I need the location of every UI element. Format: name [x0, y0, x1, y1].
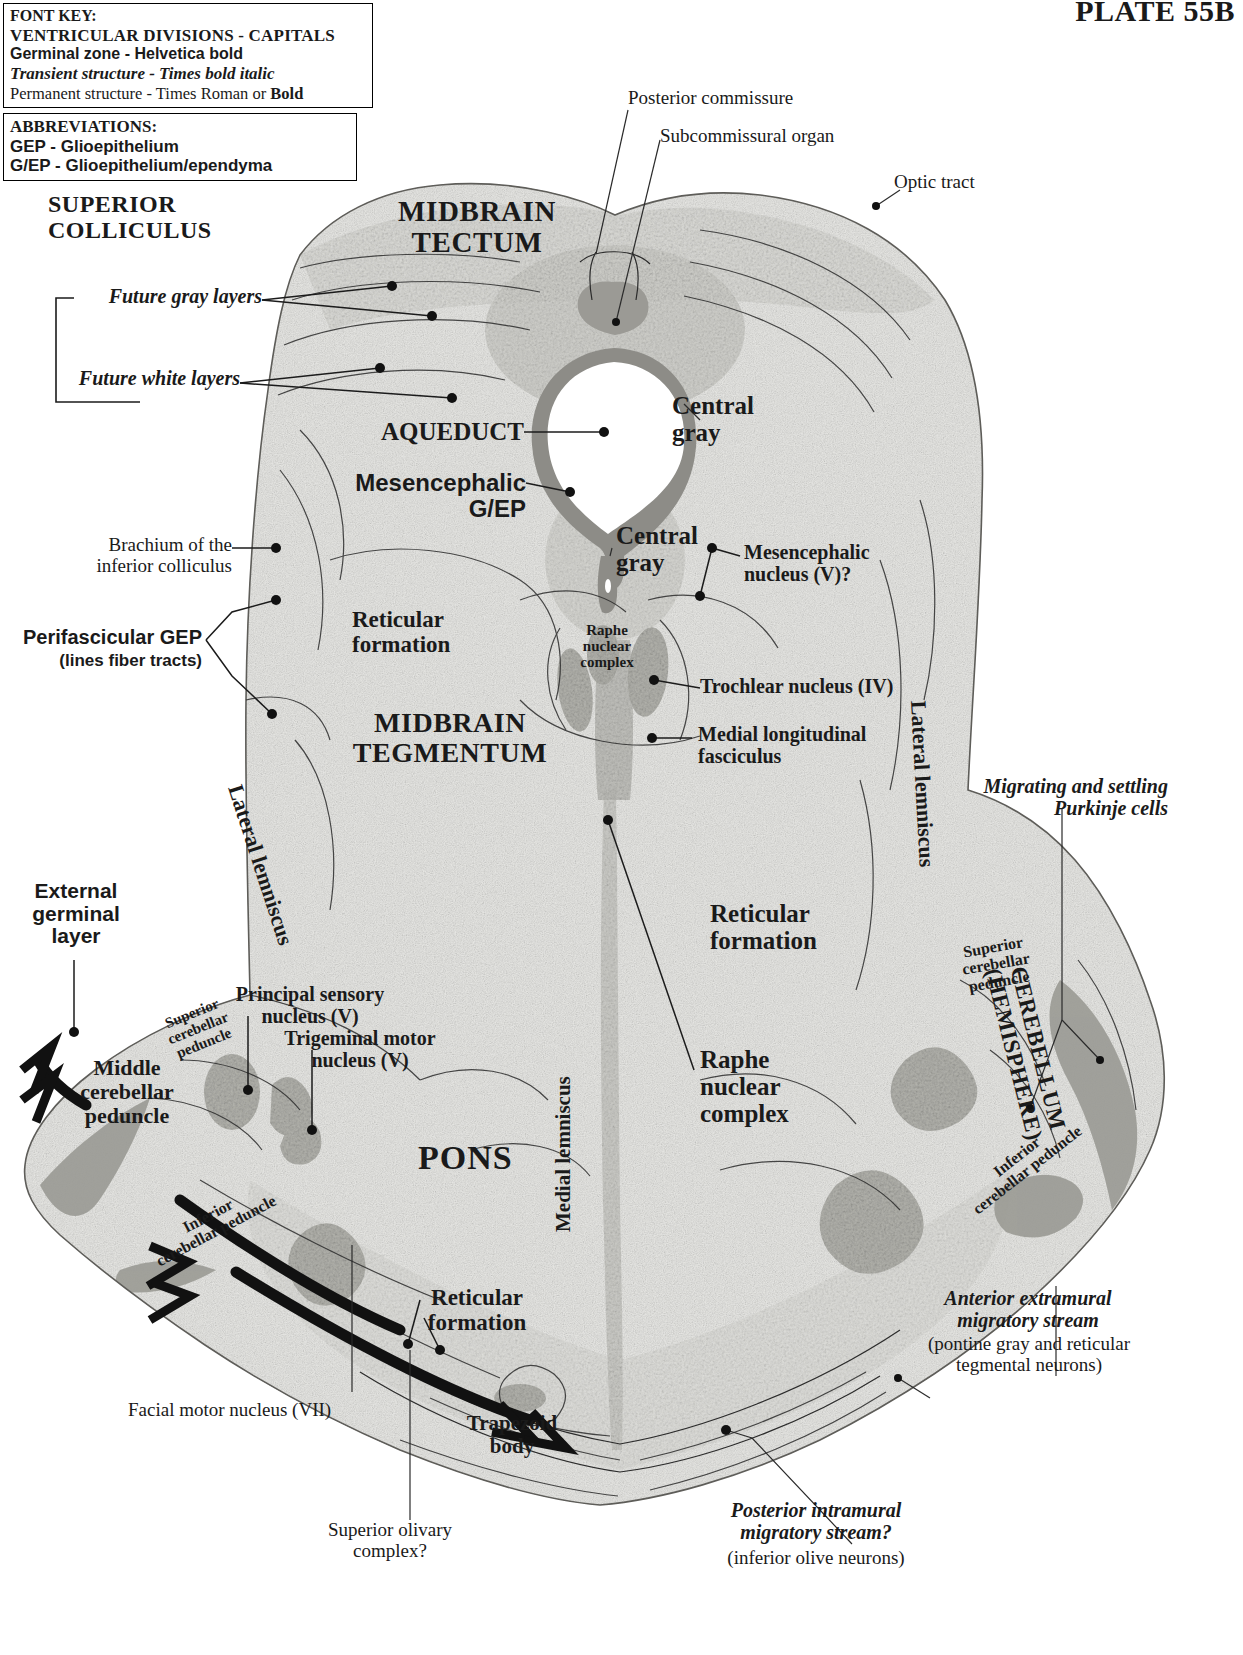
- label-anterior-extramural-stream-sublabel: (pontine gray and reticular tegmental ne…: [898, 1334, 1160, 1375]
- label-mesencephalic-nucleus-v: Mesencephalic nucleus (V)?: [744, 542, 870, 585]
- label-subcommissural-organ: Subcommissural organ: [660, 126, 834, 147]
- label-mesencephalic-gep: Mesencephalic G/EP: [316, 470, 526, 522]
- label-superior-olivary-complex: Superior olivary complex?: [300, 1520, 480, 1561]
- plate-canvas: FONT KEY: VENTRICULAR DIVISIONS - CAPITA…: [0, 0, 1243, 1655]
- label-midbrain-tectum: MIDBRAIN TECTUM: [372, 196, 582, 259]
- label-medial-lemniscus: Medial lemniscus: [552, 1076, 575, 1232]
- font-key-permanent: Permanent structure - Times Roman or Bol…: [10, 84, 366, 103]
- label-optic-tract: Optic tract: [894, 172, 975, 193]
- plate-number: PLATE 55B: [1075, 0, 1235, 28]
- label-medial-longitudinal-fasciculus: Medial longitudinal fasciculus: [698, 724, 866, 767]
- label-brachium-inferior-colliculus: Brachium of the inferior colliculus: [0, 535, 232, 576]
- label-raphe-nuclear-complex-small: Raphe nuclear complex: [568, 622, 646, 671]
- label-future-gray-layers: Future gray layers: [0, 286, 262, 308]
- label-raphe-nuclear-complex: Raphe nuclear complex: [700, 1046, 789, 1127]
- label-superior-colliculus: SUPERIOR COLLICULUS: [48, 192, 212, 244]
- label-aqueduct: AQUEDUCT: [330, 418, 524, 445]
- font-key-germinal: Germinal zone - Helvetica bold: [10, 45, 366, 64]
- font-key-permanent-text: Permanent structure - Times Roman or: [10, 84, 270, 103]
- label-external-germinal-layer: External germinal layer: [14, 880, 138, 948]
- label-posterior-commissure: Posterior commissure: [628, 88, 793, 109]
- label-reticular-formation-lower: Reticular formation: [412, 1286, 542, 1336]
- label-middle-cerebellar-peduncle: Middle cerebellar peduncle: [62, 1056, 192, 1127]
- label-trapezoid-body: Trapezoid body: [452, 1412, 572, 1457]
- label-reticular-formation-midbrain: Reticular formation: [352, 608, 450, 658]
- label-facial-motor-nucleus-vii: Facial motor nucleus (VII): [128, 1400, 331, 1421]
- label-pons: PONS: [418, 1140, 513, 1177]
- label-perifascicular-gep: Perifascicular GEP: [0, 627, 202, 649]
- font-key-permanent-bold: Bold: [270, 84, 303, 103]
- abbreviation-gep: GEP - Glioepithelium: [10, 137, 350, 157]
- label-trochlear-nucleus-iv: Trochlear nucleus (IV): [700, 676, 893, 698]
- font-key-title: FONT KEY:: [10, 7, 366, 26]
- label-migrating-purkinje-cells: Migrating and settling Purkinje cells: [940, 776, 1168, 819]
- font-key-transient: Transient structure - Times bold italic: [10, 64, 366, 84]
- label-central-gray-lower: Central gray: [616, 522, 698, 576]
- label-principal-sensory-nucleus-v: Principal sensory nucleus (V): [218, 984, 402, 1027]
- label-trigeminal-motor-nucleus-v: Trigeminal motor nucleus (V): [268, 1028, 452, 1071]
- label-inferior-cerebellar-peduncle-left: Inferior cerebellar peduncle: [142, 1175, 282, 1271]
- label-perifascicular-gep-sublabel: (lines fiber tracts): [0, 652, 202, 670]
- label-central-gray-upper: Central gray: [672, 392, 754, 446]
- label-anterior-extramural-stream: Anterior extramural migratory stream: [908, 1288, 1148, 1331]
- label-lateral-lemniscus-right: Lateral lemniscus: [906, 700, 938, 868]
- label-posterior-intramural-stream: Posterior intramural migratory stream?: [690, 1500, 942, 1543]
- label-midbrain-tegmentum: MIDBRAIN TEGMENTUM: [326, 708, 574, 768]
- label-lateral-lemniscus-left: Lateral lemniscus: [223, 782, 297, 948]
- label-future-white-layers: Future white layers: [0, 368, 240, 390]
- font-key-ventricular: VENTRICULAR DIVISIONS - CAPITALS: [10, 26, 366, 46]
- font-key-box: FONT KEY: VENTRICULAR DIVISIONS - CAPITA…: [3, 3, 373, 108]
- label-reticular-formation-pons: Reticular formation: [710, 900, 817, 954]
- abbreviations-box: ABBREVIATIONS: GEP - Glioepithelium G/EP…: [3, 113, 357, 181]
- label-posterior-intramural-stream-sublabel: (inferior olive neurons): [690, 1548, 942, 1569]
- abbreviations-title: ABBREVIATIONS:: [10, 117, 350, 137]
- abbreviation-g-ep: G/EP - Glioepithelium/ependyma: [10, 156, 350, 176]
